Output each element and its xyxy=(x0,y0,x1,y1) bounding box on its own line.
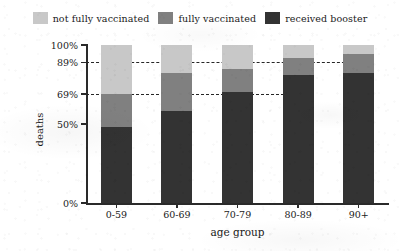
legend-label-received-booster: received booster xyxy=(285,13,367,24)
y-tick-label-89%: 89% xyxy=(57,57,78,68)
bar-segment-0-59-received-booster xyxy=(101,127,132,203)
bar-80-89[interactable] xyxy=(283,45,314,203)
bar-segment-0-59-not-fully-vaccinated xyxy=(101,45,132,94)
x-tick-label-60-69: 60-69 xyxy=(163,209,190,220)
bar-segment-90+-fully-vaccinated xyxy=(343,54,374,73)
bar-segment-60-69-received-booster xyxy=(161,111,192,203)
x-tick-label-70-79: 70-79 xyxy=(224,209,251,220)
x-tick-90+ xyxy=(358,203,359,208)
bar-segment-70-79-received-booster xyxy=(222,92,253,203)
legend-swatch-received-booster xyxy=(265,12,280,24)
bar-0-59[interactable] xyxy=(101,45,132,203)
y-axis-title: deaths xyxy=(34,85,45,175)
x-tick-80-89 xyxy=(297,203,298,208)
bar-segment-80-89-fully-vaccinated xyxy=(283,58,314,75)
x-tick-60-69 xyxy=(176,203,177,208)
bar-segment-0-59-fully-vaccinated xyxy=(101,94,132,127)
bar-70-79[interactable] xyxy=(222,45,253,203)
bar-segment-90+-received-booster xyxy=(343,73,374,203)
x-tick-70-79 xyxy=(237,203,238,208)
x-tick-0-59 xyxy=(116,203,117,208)
y-tick-label-50%: 50% xyxy=(57,119,78,130)
bar-90+[interactable] xyxy=(343,45,374,203)
bar-60-69[interactable] xyxy=(161,45,192,203)
y-tick-50% xyxy=(81,123,87,124)
legend-swatch-fully-vaccinated xyxy=(158,12,173,24)
chart-plot-area: not fully vaccinated fully vaccinated re… xyxy=(0,0,400,251)
bar-segment-80-89-not-fully-vaccinated xyxy=(283,45,314,58)
bar-segment-70-79-fully-vaccinated xyxy=(222,69,253,93)
x-tick-label-90+: 90+ xyxy=(349,209,369,220)
legend-item-received-booster[interactable]: received booster xyxy=(265,12,367,24)
bar-segment-80-89-received-booster xyxy=(283,75,314,203)
y-tick-label-69%: 69% xyxy=(57,88,78,99)
legend-item-fully-vaccinated[interactable]: fully vaccinated xyxy=(158,12,256,24)
y-tick-label-0%: 0% xyxy=(63,198,78,209)
x-tick-label-0-59: 0-59 xyxy=(106,209,127,220)
chart-legend: not fully vaccinated fully vaccinated re… xyxy=(0,12,400,24)
legend-label-not-fully-vaccinated: not fully vaccinated xyxy=(53,13,150,24)
legend-swatch-not-fully-vaccinated xyxy=(33,12,48,24)
x-axis-title: age group xyxy=(86,226,389,238)
legend-label-fully-vaccinated: fully vaccinated xyxy=(178,13,256,24)
bar-segment-70-79-not-fully-vaccinated xyxy=(222,45,253,69)
bar-segment-60-69-not-fully-vaccinated xyxy=(161,45,192,73)
bar-segment-90+-not-fully-vaccinated xyxy=(343,45,374,54)
y-tick-0% xyxy=(81,202,87,203)
bar-segment-60-69-fully-vaccinated xyxy=(161,73,192,111)
y-tick-label-100%: 100% xyxy=(51,40,78,51)
y-tick-100% xyxy=(81,44,87,45)
legend-item-not-fully-vaccinated[interactable]: not fully vaccinated xyxy=(33,12,150,24)
x-tick-label-80-89: 80-89 xyxy=(284,209,311,220)
